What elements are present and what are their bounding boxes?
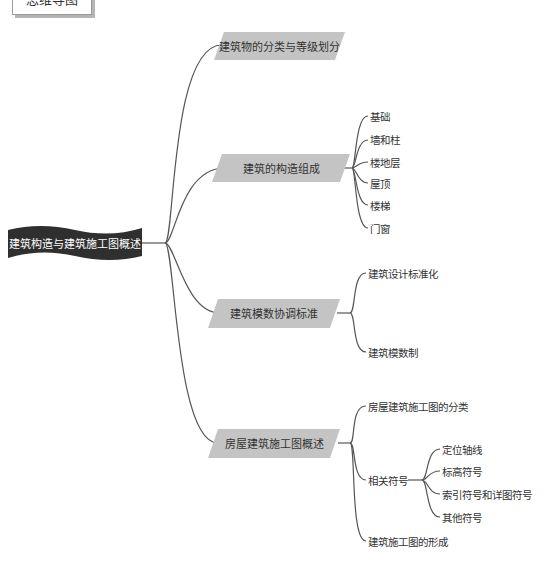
connector-lines bbox=[0, 0, 547, 568]
leaf-walls: 墙和柱 bbox=[370, 132, 400, 147]
leaf-floors: 楼地层 bbox=[370, 155, 400, 170]
leaf-drawing-classification: 房屋建筑施工图的分类 bbox=[368, 399, 468, 414]
leaf-roof: 屋顶 bbox=[370, 176, 390, 191]
root-node: 建筑构造与建筑施工图概述 bbox=[8, 226, 142, 260]
leaf-other-symbols: 其他符号 bbox=[442, 510, 482, 525]
branch-classification: 建筑物的分类与等级划分 bbox=[214, 32, 345, 60]
leaf-drawing-formation: 建筑施工图的形成 bbox=[368, 534, 448, 549]
leaf-axis-lines: 定位轴线 bbox=[442, 442, 482, 457]
leaf-foundation: 基础 bbox=[370, 109, 390, 124]
branch-drawings: 房屋建筑施工图概述 bbox=[208, 429, 340, 457]
leaf-index-symbol: 索引符号和详图符号 bbox=[442, 487, 532, 502]
branch-modulus: 建筑模数协调标准 bbox=[208, 299, 340, 327]
leaf-stairs: 楼梯 bbox=[370, 198, 390, 213]
leaf-doors-windows: 门窗 bbox=[370, 221, 390, 236]
leaf-elevation-symbol: 标高符号 bbox=[442, 464, 482, 479]
leaf-symbols: 相关符号 bbox=[368, 473, 408, 488]
leaf-standardization: 建筑设计标准化 bbox=[368, 266, 438, 281]
leaf-modulus-system: 建筑模数制 bbox=[368, 345, 418, 360]
branch-construction: 建筑的构造组成 bbox=[212, 154, 350, 182]
